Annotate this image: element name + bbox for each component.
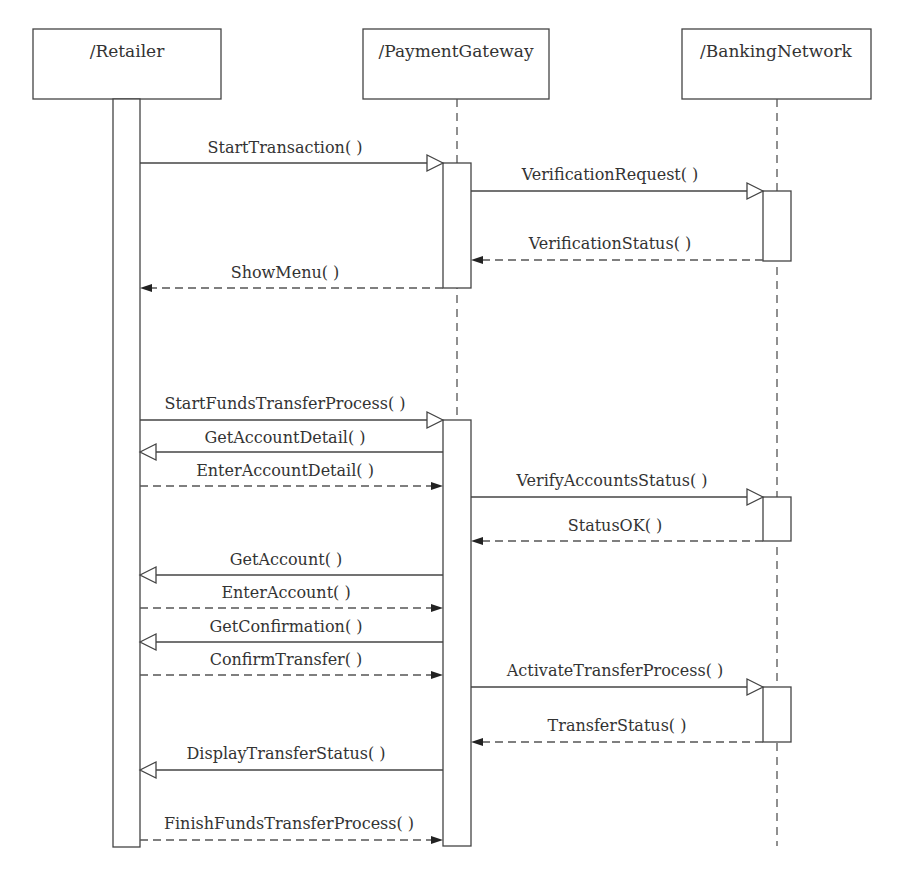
message-label: StartFundsTransferProcess( ) <box>164 394 405 413</box>
message-activate-transfer-process: ActivateTransferProcess( ) <box>471 661 763 695</box>
message-get-account-detail: GetAccountDetail( ) <box>140 428 443 460</box>
participant-payment-gateway: /PaymentGateway <box>363 29 549 99</box>
message-label: EnterAccountDetail( ) <box>196 461 374 480</box>
message-label: StatusOK( ) <box>568 516 663 535</box>
message-display-transfer-status: DisplayTransferStatus( ) <box>140 744 443 778</box>
message-finish-funds-transfer-process: FinishFundsTransferProcess( ) <box>140 814 443 844</box>
message-enter-account-detail: EnterAccountDetail( ) <box>140 461 443 490</box>
message-verification-status: VerificationStatus( ) <box>471 234 763 264</box>
activation-bar-payment-gateway-1 <box>443 163 471 288</box>
message-label: VerificationStatus( ) <box>528 234 691 253</box>
message-label: StartTransaction( ) <box>208 138 363 157</box>
message-label: ActivateTransferProcess( ) <box>506 661 723 680</box>
open-arrowhead-icon <box>747 679 763 695</box>
participant-label: /Retailer <box>90 41 165 61</box>
filled-arrowhead-icon <box>471 537 483 545</box>
activation-bar-banking-network-1 <box>763 191 791 261</box>
open-arrowhead-icon <box>140 634 156 650</box>
open-arrowhead-icon <box>140 444 156 460</box>
participant-banking-network: /BankingNetwork <box>682 29 871 99</box>
participant-label: /PaymentGateway <box>378 41 533 61</box>
open-arrowhead-icon <box>140 762 156 778</box>
message-label: DisplayTransferStatus( ) <box>187 744 386 763</box>
participant-box <box>363 29 549 99</box>
participant-retailer: /Retailer <box>33 29 221 99</box>
message-transfer-status: TransferStatus( ) <box>471 716 763 746</box>
activation-bar-payment-gateway-2 <box>443 420 471 846</box>
message-label: VerifyAccountsStatus( ) <box>515 471 707 490</box>
open-arrowhead-icon <box>427 412 443 428</box>
message-verify-accounts-status: VerifyAccountsStatus( ) <box>471 471 763 505</box>
message-verification-request: VerificationRequest( ) <box>471 165 763 199</box>
message-label: ConfirmTransfer( ) <box>210 650 363 669</box>
open-arrowhead-icon <box>427 155 443 171</box>
message-label: EnterAccount( ) <box>221 583 350 602</box>
filled-arrowhead-icon <box>140 284 152 292</box>
message-label: FinishFundsTransferProcess( ) <box>164 814 414 833</box>
message-label: GetAccount( ) <box>230 550 342 569</box>
participant-label: /BankingNetwork <box>700 41 853 61</box>
message-status-ok: StatusOK( ) <box>471 516 763 545</box>
activation-bar-banking-network-3 <box>763 687 791 742</box>
open-arrowhead-icon <box>747 183 763 199</box>
participant-box <box>682 29 871 99</box>
open-arrowhead-icon <box>747 489 763 505</box>
message-enter-account: EnterAccount( ) <box>140 583 443 612</box>
message-label: VerificationRequest( ) <box>521 165 699 184</box>
message-start-transaction: StartTransaction( ) <box>140 138 443 171</box>
message-label: ShowMenu( ) <box>231 263 340 282</box>
message-label: TransferStatus( ) <box>548 716 687 735</box>
activation-bar-banking-network-2 <box>763 497 791 541</box>
filled-arrowhead-icon <box>431 836 443 844</box>
filled-arrowhead-icon <box>431 604 443 612</box>
open-arrowhead-icon <box>140 567 156 583</box>
message-show-menu: ShowMenu( ) <box>140 263 443 292</box>
message-label: GetAccountDetail( ) <box>205 428 366 447</box>
message-get-confirmation: GetConfirmation( ) <box>140 617 443 650</box>
message-label: GetConfirmation( ) <box>210 617 363 636</box>
participant-box <box>33 29 221 99</box>
filled-arrowhead-icon <box>431 671 443 679</box>
message-get-account: GetAccount( ) <box>140 550 443 583</box>
sequence-diagram: /Retailer /PaymentGateway /BankingNetwor… <box>0 0 905 879</box>
message-confirm-transfer: ConfirmTransfer( ) <box>140 650 443 679</box>
filled-arrowhead-icon <box>471 256 483 264</box>
activation-bar-retailer <box>113 99 140 847</box>
message-start-funds-transfer-process: StartFundsTransferProcess( ) <box>140 394 443 428</box>
filled-arrowhead-icon <box>471 738 483 746</box>
filled-arrowhead-icon <box>431 482 443 490</box>
